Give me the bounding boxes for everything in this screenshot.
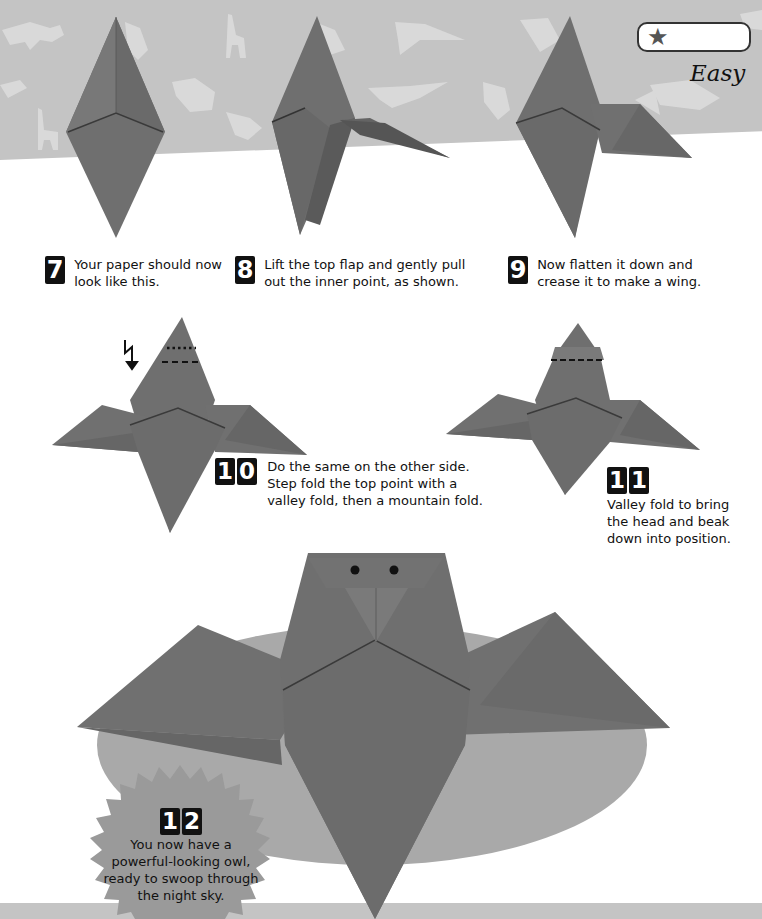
difficulty-rating: ★ (637, 22, 751, 52)
step8-figure (272, 16, 450, 235)
step-12: 1 2 You now have a powerful-looking owl,… (95, 808, 267, 904)
owl-eye-left (351, 566, 360, 575)
step-number-badge: 1 0 (215, 458, 257, 485)
owl-eye-right (390, 566, 399, 575)
step-8-text: Lift the top flap and gently pull out th… (264, 256, 465, 290)
step-7-text: Your paper should now look like this. (74, 256, 222, 290)
step-number-badge: 7 (45, 256, 65, 284)
step-9-text: Now flatten it down and crease it to mak… (537, 256, 701, 290)
difficulty-label: Easy (690, 60, 745, 86)
step-number-badge: 8 (235, 256, 255, 284)
step-10-text: Do the same on the other side. Step fold… (267, 458, 483, 509)
step-number-badge: 1 2 (160, 808, 202, 835)
step-12-text: You now have a powerful-looking owl, rea… (95, 836, 267, 904)
step-number-badge: 1 1 (607, 467, 649, 494)
step7-figure (66, 17, 165, 238)
step-10: 1 0 Do the same on the other side. Step … (215, 458, 483, 509)
step-11-text: Valley fold to bring the head and beak d… (607, 496, 731, 547)
star-icon: ★ (647, 22, 669, 52)
step-7: 7 Your paper should now look like this. (45, 256, 222, 290)
step-8: 8 Lift the top flap and gently pull out … (235, 256, 465, 290)
step-11: 1 1 Valley fold to bring the head and be… (607, 467, 731, 547)
step-fold-arrow-icon (125, 340, 137, 369)
step-number-badge: 9 (508, 256, 528, 284)
step-9: 9 Now flatten it down and crease it to m… (508, 256, 701, 290)
